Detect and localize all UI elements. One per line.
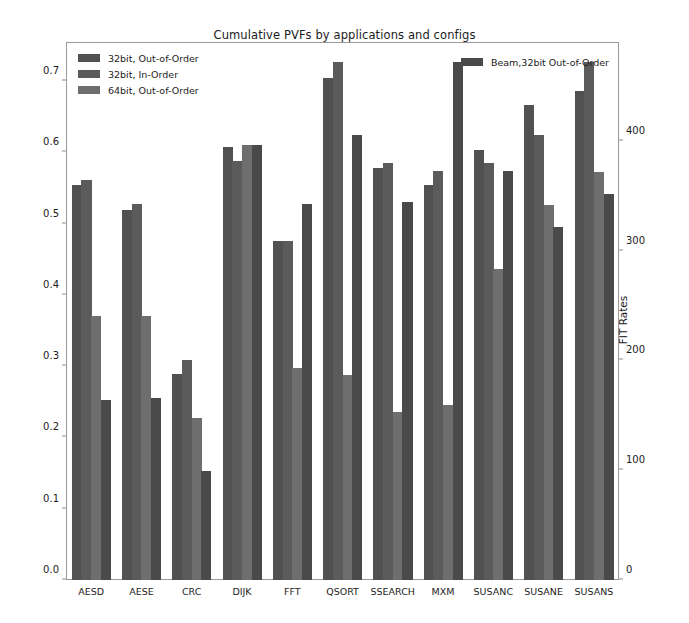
plot-area: CumulativePVF FIT Rates 0.00.10.20.30.40… (66, 42, 619, 580)
bar (352, 135, 362, 580)
bar (172, 374, 182, 580)
y-tick-mark-left (62, 436, 66, 437)
y-tick-mark-right (619, 249, 623, 250)
bar (493, 269, 503, 580)
bar (292, 368, 302, 580)
y-tick-label-left: 0.0 (43, 564, 66, 575)
bar (433, 171, 443, 580)
y-tick-mark-left (62, 80, 66, 81)
legend-swatch-icon (78, 54, 100, 62)
bar (101, 400, 111, 580)
bar (122, 210, 132, 580)
x-tick-label: AESE (129, 586, 154, 597)
y-tick-mark-right (619, 359, 623, 360)
legend-left-entry: 32bit, Out-of-Order (78, 50, 199, 66)
figure-canvas: Cumulative PVFs by applications and conf… (0, 0, 689, 623)
legend-left-entry: 32bit, In-Order (78, 66, 199, 82)
bar (424, 185, 434, 580)
bar (393, 412, 403, 580)
y-tick-label-left: 0.2 (43, 421, 66, 432)
bar (141, 316, 151, 580)
legend-swatch-icon (461, 58, 483, 66)
x-tick-label: MXM (432, 586, 455, 597)
bar (302, 204, 312, 580)
bar (553, 227, 563, 580)
y-tick-label-right: 200 (619, 344, 645, 355)
y-tick-mark-left (62, 151, 66, 152)
bar (283, 241, 293, 580)
y-tick-mark-right (619, 139, 623, 140)
bar (232, 161, 242, 580)
bar (151, 398, 161, 580)
legend-swatch-icon (78, 86, 100, 94)
legend-right: Beam,32bit Out-of-Order (457, 52, 613, 72)
bar (503, 171, 513, 580)
legend-right-label: Beam,32bit Out-of-Order (491, 57, 609, 68)
legend-left-entry: 64bit, Out-of-Order (78, 82, 199, 98)
bar (544, 205, 554, 580)
y-tick-mark-left (62, 293, 66, 294)
y-tick-label-left: 0.5 (43, 207, 66, 218)
bar (524, 105, 534, 580)
bar (182, 360, 192, 580)
bar (484, 163, 494, 580)
x-tick-label: SUSANC (474, 586, 513, 597)
bar (474, 150, 484, 580)
x-tick-label: SUSANE (524, 586, 563, 597)
bar (343, 375, 353, 580)
bar (223, 147, 233, 580)
y-tick-label-left: 0.3 (43, 350, 66, 361)
y-tick-label-right: 400 (619, 124, 645, 135)
y-tick-mark-right (619, 579, 623, 580)
y-tick-label-left: 0.4 (43, 278, 66, 289)
legend-right-entry: Beam,32bit Out-of-Order (461, 54, 609, 70)
bar (252, 145, 262, 580)
bar (383, 163, 393, 580)
x-tick-label: SUSANS (574, 586, 613, 597)
legend-swatch-icon (78, 70, 100, 78)
y-axis-label-right: FIT Rates (617, 260, 629, 380)
bar (604, 194, 614, 580)
y-tick-label-left: 0.1 (43, 492, 66, 503)
chart-title: Cumulative PVFs by applications and conf… (0, 28, 689, 42)
bar (72, 185, 82, 580)
x-tick-label: FFT (284, 586, 301, 597)
y-tick-label-left: 0.7 (43, 65, 66, 76)
bar (132, 204, 142, 580)
legend-left: 32bit, Out-of-Order32bit, In-Order64bit,… (74, 48, 203, 100)
x-tick-label: DIJK (232, 586, 251, 597)
y-tick-label-right: 0 (619, 564, 632, 575)
bar (201, 471, 211, 580)
y-tick-label-right: 100 (619, 454, 645, 465)
bar (534, 135, 544, 580)
bar (453, 62, 463, 580)
legend-left-label: 64bit, Out-of-Order (108, 85, 199, 96)
legend-left-label: 32bit, In-Order (108, 69, 178, 80)
bar (584, 62, 594, 580)
y-tick-mark-left (62, 579, 66, 580)
y-tick-mark-left (62, 222, 66, 223)
x-tick-label: QSORT (326, 586, 359, 597)
bar (402, 202, 412, 580)
x-tick-label: AESD (78, 586, 104, 597)
y-tick-label-right: 300 (619, 234, 645, 245)
legend-left-label: 32bit, Out-of-Order (108, 53, 199, 64)
y-tick-mark-right (619, 469, 623, 470)
bar (594, 172, 604, 580)
y-tick-mark-left (62, 507, 66, 508)
y-tick-mark-left (62, 365, 66, 366)
bar (575, 91, 585, 580)
x-tick-label: CRC (182, 586, 201, 597)
y-tick-label-left: 0.6 (43, 136, 66, 147)
bar (81, 180, 91, 580)
bar (91, 316, 101, 580)
bar (323, 78, 333, 580)
x-tick-label: SSEARCH (371, 586, 415, 597)
bar (192, 418, 202, 580)
bar (443, 405, 453, 580)
bar (373, 168, 383, 580)
bar (273, 241, 283, 580)
bar (333, 62, 343, 580)
bar (242, 145, 252, 580)
